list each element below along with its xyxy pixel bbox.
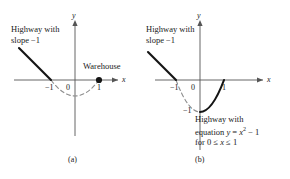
panel-b-y-axis-label: y <box>197 11 201 20</box>
panel-b-x-axis-label: x <box>267 75 271 84</box>
panel-b-highway-note-line1: Highway with <box>146 25 194 35</box>
panel-b-tick-y-neg1: −1 <box>183 106 192 115</box>
domain-prefix: for 0 ≤ <box>195 137 220 147</box>
panel-b-equation-note-line1: Highway with <box>195 115 243 125</box>
panel-a-tick-neg1: −1 <box>45 83 54 92</box>
equation-note-suffix: − 1 <box>246 127 259 137</box>
equation-note-prefix: equation <box>195 127 226 137</box>
panel-b-caption: (b) <box>195 155 204 164</box>
panel-a-tick-one: 1 <box>97 83 101 92</box>
panel-b-equation-note-line2: equation y = x2 − 1 <box>195 126 259 138</box>
x-axis <box>155 77 263 82</box>
panel-b: x y −1 0 1 −1 Highway with slope −1 High… <box>145 0 290 179</box>
panel-a-highway-note-line1: Highway with <box>11 25 59 35</box>
panel-a: x y −1 0 1 Highway with slope −1 Warehou… <box>0 0 145 179</box>
highway-line-segment <box>19 48 51 80</box>
equation-note-equals: = <box>230 127 239 137</box>
panel-b-highway-note-line2: slope −1 <box>146 36 175 46</box>
panel-a-highway-note-line2: slope −1 <box>11 36 40 46</box>
panel-a-y-axis-label: y <box>72 11 76 20</box>
panel-b-tick-neg1: −1 <box>170 83 179 92</box>
panel-a-tick-zero: 0 <box>66 83 70 92</box>
highway-line-segment <box>148 52 176 80</box>
panel-a-caption: (a) <box>68 155 77 164</box>
domain-suffix: ≤ 1 <box>224 137 237 147</box>
panel-a-x-axis-label: x <box>122 75 126 84</box>
panel-b-tick-one: 1 <box>222 83 226 92</box>
y-axis <box>72 20 77 136</box>
panel-b-equation-note-line3: for 0 ≤ x ≤ 1 <box>195 138 237 148</box>
panel-b-tick-zero: 0 <box>191 83 195 92</box>
x-axis <box>14 77 118 82</box>
parabola-solid-branch <box>200 80 224 112</box>
figure-container: x y −1 0 1 Highway with slope −1 Warehou… <box>0 0 290 179</box>
panel-a-warehouse-label: Warehouse <box>83 62 121 72</box>
